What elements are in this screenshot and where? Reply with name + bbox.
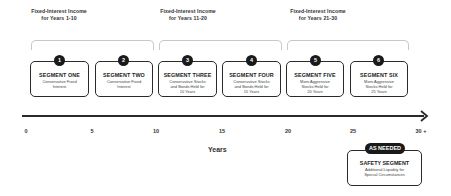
as-needed-badge: AS NEEDED (365, 143, 405, 154)
segment-title: SEGMENT THREE (159, 72, 216, 78)
segment-number-badge: 6 (373, 55, 384, 66)
segment-desc-line: 15 Years (226, 89, 278, 94)
segment-number-badge: 5 (310, 55, 321, 66)
group-bracket (31, 40, 154, 50)
segment-desc-line: 10 Years (162, 89, 214, 94)
segment-two-box: SEGMENT TWO Conservative Fixed Interest (95, 61, 153, 97)
segment-description: More Aggressive Stocks Held for 25 Years (353, 79, 405, 94)
arrowhead-icon (418, 110, 430, 122)
segment-four-box: SEGMENT FOUR Conservative Stocks and Bon… (222, 61, 281, 97)
group-bracket (159, 40, 282, 50)
group-header-line2: for Years 21-30 (258, 15, 378, 22)
segment-desc-line: 25 Years (353, 89, 405, 94)
segment-desc-line: Interest (34, 84, 86, 89)
safety-segment-box: SAFETY SEGMENT Additional Liquidity for … (347, 150, 422, 186)
group-bracket (287, 40, 409, 50)
segment-description: Conservative Stocks and Bonds Held for 1… (162, 79, 214, 94)
safety-description: Additional Liquidity for Special Circums… (348, 167, 421, 177)
segment-number-badge: 1 (54, 55, 65, 66)
segment-desc-line: 20 Years (289, 89, 341, 94)
axis-tick-25: 25 (343, 128, 363, 134)
group-header-years-21-30: Fixed-Interest Income for Years 21-30 (258, 8, 378, 22)
group-header-line2: for Years 1-10 (0, 15, 119, 22)
segment-three-box: SEGMENT THREE Conservative Stocks and Bo… (158, 61, 217, 97)
safety-title: SAFETY SEGMENT (348, 160, 421, 166)
segment-title: SEGMENT FIVE (287, 72, 343, 78)
segment-description: Conservative Stocks and Bonds Held for 1… (226, 79, 278, 94)
safety-desc-line: Special Circumstances (348, 172, 421, 177)
group-header-line1: Fixed-Interest Income (0, 8, 119, 15)
segment-number-badge: 3 (182, 55, 193, 66)
segment-title: SEGMENT ONE (31, 72, 88, 78)
group-header-years-11-20: Fixed-Interest Income for Years 11-20 (128, 8, 248, 22)
segment-title: SEGMENT TWO (96, 72, 152, 78)
segment-five-box: SEGMENT FIVE More Aggressive Stocks Held… (286, 61, 344, 97)
timeline-axis (22, 115, 424, 117)
segment-number-badge: 2 (118, 55, 129, 66)
axis-tick-15: 15 (212, 128, 232, 134)
segment-title: SEGMENT SIX (351, 72, 407, 78)
axis-label: Years (208, 146, 227, 153)
segment-six-box: SEGMENT SIX More Aggressive Stocks Held … (350, 61, 408, 97)
group-header-line2: for Years 11-20 (128, 15, 248, 22)
segment-number-badge: 4 (246, 55, 257, 66)
segment-description: Conservative Fixed Interest (34, 79, 86, 89)
axis-tick-20: 20 (278, 128, 298, 134)
segment-description: Conservative Fixed Interest (98, 79, 150, 89)
group-header-years-1-10: Fixed-Interest Income for Years 1-10 (0, 8, 119, 22)
segment-title: SEGMENT FOUR (223, 72, 280, 78)
segment-description: More Aggressive Stocks Held for 20 Years (289, 79, 341, 94)
segment-desc-line: Interest (98, 84, 150, 89)
segment-one-box: SEGMENT ONE Conservative Fixed Interest (30, 61, 89, 97)
group-header-line1: Fixed-Interest Income (128, 8, 248, 15)
axis-tick-30-plus: 30 + (411, 128, 431, 134)
axis-tick-5: 5 (82, 128, 102, 134)
group-header-line1: Fixed-Interest Income (258, 8, 378, 15)
axis-tick-0: 0 (16, 128, 36, 134)
axis-tick-10: 10 (146, 128, 166, 134)
